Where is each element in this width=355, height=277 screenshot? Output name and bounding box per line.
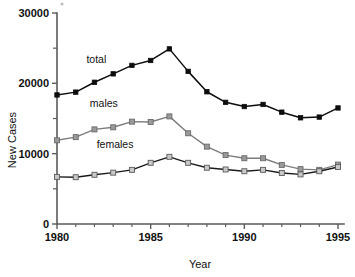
data-point-males-1983 — [111, 125, 116, 130]
data-point-females-1985 — [148, 160, 153, 165]
x-tick-label: 1990 — [232, 231, 256, 243]
y-tick-label: 20000 — [18, 77, 49, 89]
new-cases-line-chart: 01000020000300001980198519901995 totalma… — [0, 0, 355, 277]
data-point-females-1989 — [223, 167, 228, 172]
data-point-total-1992 — [280, 110, 284, 114]
data-point-total-1986 — [167, 47, 171, 51]
y-tick-label: 0 — [43, 218, 49, 230]
data-point-males-1992 — [279, 162, 284, 167]
data-point-females-1987 — [186, 160, 191, 165]
data-point-total-1983 — [111, 72, 115, 76]
data-series-group — [55, 47, 341, 180]
y-axis-title: New Cases — [6, 111, 18, 168]
data-point-females-1991 — [261, 167, 266, 172]
y-tick-label: 10000 — [18, 148, 49, 160]
data-point-total-1995 — [336, 106, 340, 110]
y-tick-label: 30000 — [18, 7, 49, 19]
data-point-total-1987 — [186, 69, 190, 73]
chart-canvas: 01000020000300001980198519901995 totalma… — [0, 0, 355, 277]
data-point-males-1982 — [92, 127, 97, 132]
data-point-total-1989 — [223, 100, 227, 104]
data-point-females-1982 — [92, 172, 97, 177]
data-point-females-1990 — [242, 169, 247, 174]
series-label-females: females — [97, 138, 134, 150]
series-label-males: males — [90, 97, 118, 109]
data-point-males-1989 — [223, 153, 228, 158]
data-point-males-1984 — [129, 119, 134, 124]
data-point-total-1984 — [130, 63, 134, 67]
data-point-total-1982 — [92, 80, 96, 84]
data-point-total-1980 — [55, 93, 59, 97]
data-point-females-1988 — [204, 165, 209, 170]
data-point-total-1988 — [205, 90, 209, 94]
x-tick-label: 1995 — [326, 231, 350, 243]
data-point-females-1983 — [111, 170, 116, 175]
series-label-total: total — [86, 53, 106, 65]
series-line-females — [57, 157, 338, 177]
data-point-total-1991 — [261, 102, 265, 106]
data-point-total-1985 — [148, 58, 152, 62]
x-tick-label: 1985 — [138, 231, 162, 243]
data-point-males-1988 — [204, 144, 209, 149]
x-tick-label: 1980 — [45, 231, 69, 243]
data-point-females-1994 — [317, 169, 322, 174]
data-point-males-1980 — [55, 138, 60, 143]
data-point-males-1985 — [148, 120, 153, 125]
tick-marks-group — [52, 13, 338, 229]
data-point-females-1981 — [73, 175, 78, 180]
data-point-total-1990 — [242, 104, 246, 108]
scan-artifact-dot — [60, 2, 63, 5]
data-point-total-1993 — [298, 116, 302, 120]
data-point-females-1984 — [129, 167, 134, 172]
data-point-females-1993 — [298, 172, 303, 177]
data-point-males-1991 — [261, 156, 266, 161]
data-point-total-1981 — [74, 90, 78, 94]
tick-labels-group: 01000020000300001980198519901995 — [18, 7, 350, 243]
data-point-females-1980 — [55, 174, 60, 179]
data-point-males-1981 — [73, 135, 78, 140]
data-point-females-1986 — [167, 154, 172, 159]
x-axis-title: Year — [189, 258, 212, 270]
data-point-females-1992 — [279, 171, 284, 176]
data-point-males-1986 — [167, 114, 172, 119]
data-point-males-1990 — [242, 156, 247, 161]
data-point-males-1993 — [298, 167, 303, 172]
data-point-males-1987 — [186, 131, 191, 136]
data-point-total-1994 — [317, 115, 321, 119]
data-point-females-1995 — [336, 165, 341, 170]
